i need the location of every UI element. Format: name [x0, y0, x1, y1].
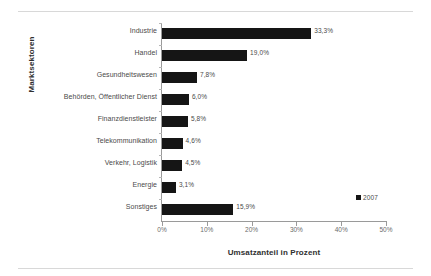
bar — [162, 94, 189, 105]
bar-row: Sonstiges15,9% — [162, 199, 386, 221]
x-axis-tick-label: 20% — [245, 226, 258, 233]
bar — [162, 72, 197, 83]
bar-value-label: 33,3% — [314, 27, 333, 34]
y-axis-title: Marktsektoren — [27, 0, 36, 130]
bar — [162, 138, 183, 149]
y-axis-tick — [159, 45, 162, 46]
chart-figure: Industrie33,3%Handel19,0%Gesundheitswese… — [0, 0, 431, 276]
bottom-divider-rule — [18, 268, 413, 269]
category-label: Finanzdienstleister — [98, 115, 157, 122]
bar — [162, 182, 176, 193]
bar-row: Finanzdienstleister5,8% — [162, 111, 386, 133]
y-axis-tick — [159, 133, 162, 134]
bar — [162, 204, 233, 215]
bar-value-label: 19,0% — [250, 49, 269, 56]
y-axis-tick — [159, 23, 162, 24]
category-label: Sonstiges — [126, 203, 157, 210]
bar-row: Industrie33,3% — [162, 23, 386, 45]
y-axis-tick — [159, 199, 162, 200]
bar-value-label: 4,5% — [185, 159, 200, 166]
bar-value-label: 15,9% — [236, 203, 255, 210]
category-label: Behörden, Öffentlicher Dienst — [64, 93, 157, 100]
bar-row: Verkehr, Logistik4,5% — [162, 155, 386, 177]
bar-value-label: 3,1% — [179, 181, 194, 188]
bar-row: Behörden, Öffentlicher Dienst6,0% — [162, 89, 386, 111]
x-axis-line — [161, 221, 387, 222]
bar-value-label: 5,8% — [191, 115, 206, 122]
bar — [162, 116, 188, 127]
x-axis-tick-label: 40% — [335, 226, 348, 233]
category-label: Industrie — [130, 27, 157, 34]
y-axis-tick — [159, 89, 162, 90]
y-axis-tick — [159, 155, 162, 156]
category-label: Handel — [135, 49, 157, 56]
x-axis-title: Umsatzanteil in Prozent — [162, 248, 386, 257]
category-label: Gesundheitswesen — [97, 71, 157, 78]
bar-row: Handel19,0% — [162, 45, 386, 67]
bar-row: Gesundheitswesen7,8% — [162, 67, 386, 89]
legend: 2007 — [356, 194, 378, 201]
top-divider-rule — [18, 11, 413, 12]
bar — [162, 50, 247, 61]
category-label: Energie — [133, 181, 157, 188]
bar-value-label: 7,8% — [200, 71, 215, 78]
y-axis-tick — [159, 67, 162, 68]
bar — [162, 28, 311, 39]
bar-row: Energie3,1% — [162, 177, 386, 199]
category-label: Telekommunikation — [96, 137, 157, 144]
x-axis-tick-label: 30% — [290, 226, 303, 233]
bar-value-label: 4,6% — [186, 137, 201, 144]
category-label: Verkehr, Logistik — [105, 159, 157, 166]
bar-row: Telekommunikation4,6% — [162, 133, 386, 155]
bar — [162, 160, 182, 171]
x-axis-tick-label: 50% — [379, 226, 392, 233]
x-axis-tick-label: 10% — [200, 226, 213, 233]
legend-label-2007: 2007 — [363, 194, 378, 201]
plot-area: Industrie33,3%Handel19,0%Gesundheitswese… — [162, 23, 386, 221]
bar-value-label: 6,0% — [192, 93, 207, 100]
x-axis-tick-label: 0% — [157, 226, 166, 233]
legend-swatch-2007 — [356, 195, 361, 200]
y-axis-tick — [159, 177, 162, 178]
y-axis-tick — [159, 111, 162, 112]
